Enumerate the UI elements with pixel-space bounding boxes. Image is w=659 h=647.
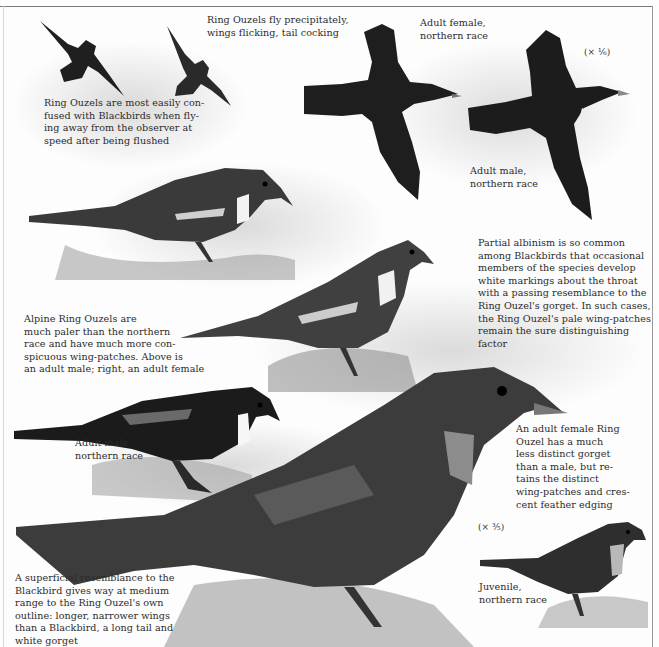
caption-flight-confusion: Ring Ouzels are most easily con- fused w… [44, 97, 204, 147]
caption-juvenile: Juvenile, northern race [479, 581, 547, 606]
caption-adult-female-large: An adult female Ring Ouzel has a much le… [516, 423, 630, 511]
plate-page: Ring Ouzels are most easily con- fused w… [0, 0, 659, 647]
scale-label-top: (× ⅙) [584, 47, 610, 57]
flying-silhouette-1-illustration [38, 18, 128, 88]
frame-top-rule [0, 6, 653, 7]
caption-alpine: Alpine Ring Ouzels are much paler than t… [24, 313, 204, 376]
caption-adult-female-flight: Adult female, northern race [420, 17, 488, 42]
caption-adult-male-perched: Adult male, northern race [75, 437, 143, 462]
caption-flight-style: Ring Ouzels fly precipitately, wings fli… [207, 14, 349, 39]
adult-male-flight-illustration [466, 28, 636, 223]
scale-label-bottom: (× ⅗) [478, 522, 504, 532]
frame-left-rule [3, 6, 4, 647]
juvenile-illustration [478, 518, 650, 628]
caption-outline: A superficial resemblance to the Blackbi… [15, 572, 175, 647]
caption-adult-male-flight: Adult male, northern race [470, 165, 538, 190]
caption-albinism: Partial albinism is so common among Blac… [478, 237, 651, 350]
adult-female-flight-illustration [302, 22, 462, 202]
frame-right-rule [652, 6, 653, 647]
